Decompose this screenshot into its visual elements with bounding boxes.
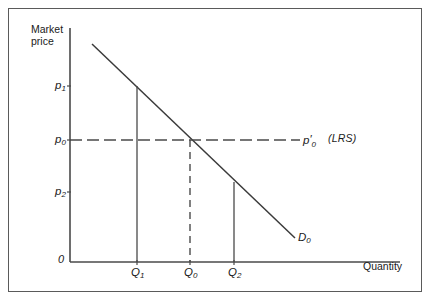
long-run-supply-price-label: p′0 <box>303 133 316 150</box>
quantity-tick-label-q1: Q1 <box>131 266 144 281</box>
quantity-tick-base-q2: Q <box>228 266 237 278</box>
quantity-tick-label-q2: Q2 <box>228 266 241 281</box>
origin-label: 0 <box>58 253 64 265</box>
long-run-supply-regime-label: (LRS) <box>328 133 356 145</box>
price-tick-sub-p0: 0 <box>61 138 65 147</box>
price-tick-sub-p1: 1 <box>61 84 65 93</box>
price-tick-label-p0: p0 <box>55 133 66 148</box>
quantity-tick-base-q0: Q <box>184 266 193 278</box>
figure-root: Market price Quantity 0 p1 p0 p2 p′0 (LR… <box>0 0 435 301</box>
quantity-tick-sub-q0: 0 <box>193 271 197 280</box>
y-axis-title-line1: Market <box>31 23 63 35</box>
x-axis-title: Quantity <box>363 261 402 273</box>
quantity-tick-sub-q1: 1 <box>140 271 144 280</box>
price-tick-sub-p2: 2 <box>61 190 65 199</box>
price-tick-label-p2: p2 <box>55 185 66 200</box>
quantity-tick-base-q1: Q <box>131 266 140 278</box>
quantity-tick-sub-q2: 2 <box>237 271 241 280</box>
y-axis-title: Market price <box>31 24 63 48</box>
lrs-price-sub: 0 <box>312 140 316 149</box>
demand-curve-label: D0 <box>298 231 311 246</box>
plot-canvas <box>0 0 435 301</box>
price-tick-label-p1: p1 <box>55 79 66 94</box>
demand-curve-sub: 0 <box>306 236 310 245</box>
y-axis-title-line2: price <box>31 35 54 47</box>
quantity-tick-label-q0: Q0 <box>184 266 197 281</box>
demand-curve-d0 <box>92 44 295 238</box>
